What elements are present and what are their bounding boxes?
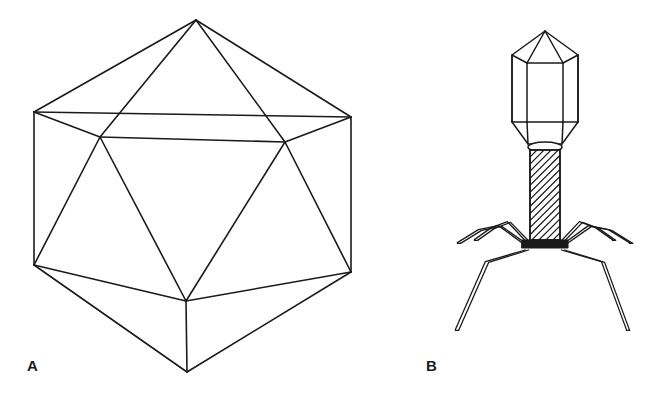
panel-label-b: B	[426, 358, 437, 373]
virus-figure-svg	[0, 0, 647, 401]
figure-root: A B	[0, 0, 647, 401]
panel-label-a: A	[27, 358, 38, 373]
icosahedron-edge	[186, 301, 187, 372]
capsid-facet-edge	[562, 122, 563, 144]
capsid-outline	[512, 31, 578, 144]
capsid-head	[512, 31, 578, 144]
capsid-facet-edge	[527, 122, 528, 144]
